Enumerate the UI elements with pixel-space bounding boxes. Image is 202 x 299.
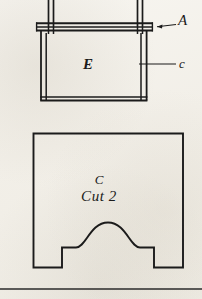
figure-page: A c E C Cut 2 xyxy=(0,0,202,299)
leg-left xyxy=(49,0,54,26)
label-part-C: C xyxy=(95,173,104,186)
panel-side-right-c xyxy=(141,31,147,101)
label-side-c: c xyxy=(179,57,185,70)
technical-drawing xyxy=(0,0,202,299)
label-rail-A: A xyxy=(178,13,187,28)
upper-elevation-figure xyxy=(36,0,176,101)
label-cut-instruction: Cut 2 xyxy=(81,189,117,204)
panel-bottom-edge xyxy=(40,97,147,101)
leader-line-A xyxy=(157,25,176,29)
panel-side-left xyxy=(41,31,46,101)
figure-group: A c E C Cut 2 xyxy=(0,0,202,299)
label-panel-E: E xyxy=(83,57,93,72)
leg-right xyxy=(138,0,143,26)
